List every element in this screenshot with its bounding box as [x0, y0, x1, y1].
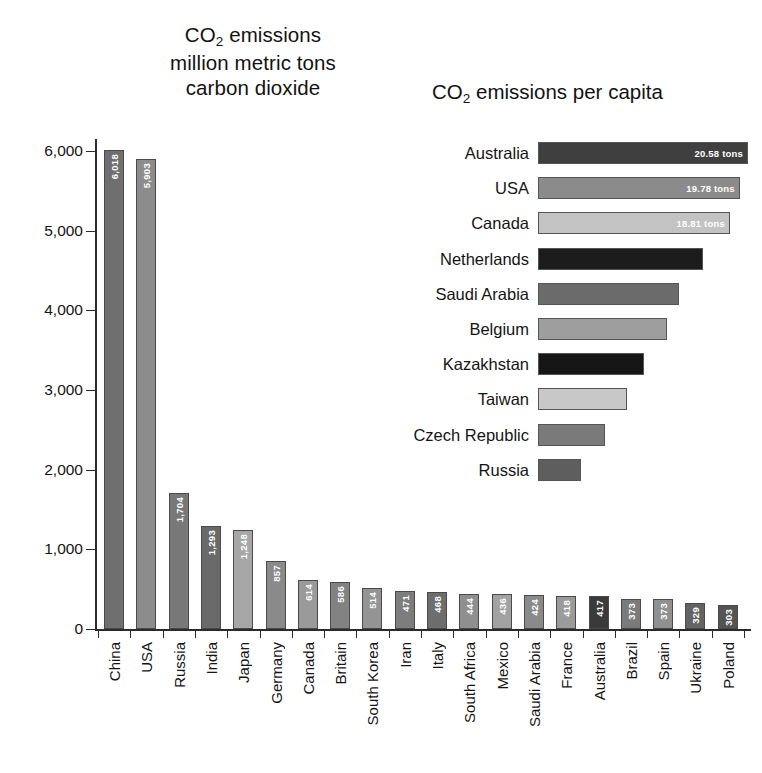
percapita-label-czech-republic: Czech Republic: [380, 425, 529, 444]
percapita-label-saudi-arabia: Saudi Arabia: [380, 284, 529, 303]
percapita-bar-czech-republic[interactable]: [538, 424, 605, 446]
percapita-label-usa: USA: [380, 179, 529, 198]
percapita-bar-australia[interactable]: 20.58 tons: [538, 142, 748, 164]
percapita-label-taiwan: Taiwan: [380, 390, 529, 409]
percapita-label-belgium: Belgium: [380, 320, 529, 339]
percapita-label-australia: Australia: [380, 144, 529, 163]
percapita-label-canada: Canada: [380, 214, 529, 233]
percapita-bar-russia[interactable]: [538, 459, 581, 481]
percapita-value-label: 18.81 tons: [676, 218, 724, 229]
percapita-bar-kazakhstan[interactable]: [538, 353, 644, 375]
percapita-value-label: 20.58 tons: [695, 148, 743, 159]
percapita-bar-belgium[interactable]: [538, 318, 667, 340]
percapita-bar-taiwan[interactable]: [538, 388, 627, 410]
percapita-bar-netherlands[interactable]: [538, 248, 703, 270]
percapita-bar-usa[interactable]: 19.78 tons: [538, 177, 740, 199]
chart-page: CO2 emissions million metric tons carbon…: [0, 0, 762, 773]
percapita-label-russia: Russia: [380, 460, 529, 479]
percapita-bar-saudi-arabia[interactable]: [538, 283, 679, 305]
percapita-label-kazakhstan: Kazakhstan: [380, 355, 529, 374]
percapita-bar-chart: Australia20.58 tonsUSA19.78 tonsCanada18…: [0, 0, 762, 773]
percapita-value-label: 19.78 tons: [686, 183, 734, 194]
percapita-label-netherlands: Netherlands: [380, 249, 529, 268]
percapita-bar-canada[interactable]: 18.81 tons: [538, 212, 730, 234]
